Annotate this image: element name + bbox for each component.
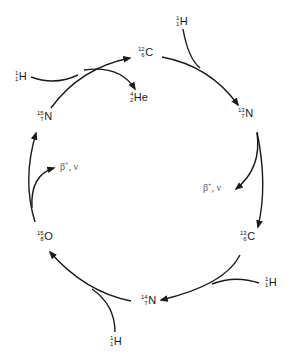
- arrow-n15-to-c12: [51, 58, 130, 108]
- nuclide-carbon-13: 136 C: [240, 230, 255, 242]
- cno-cycle-diagram: 126 C 137 N 136 C 147 N 158 O 157 N 42 H…: [0, 0, 290, 361]
- emission-beta-plus-neutrino-right: β+, ν: [203, 182, 221, 193]
- nuclide-oxygen-15: 158 O: [37, 230, 53, 242]
- atomic-number: 1: [265, 282, 268, 288]
- emission-beta-plus-neutrino-left: β+, ν: [60, 161, 78, 172]
- element-symbol: O: [44, 231, 53, 242]
- atomic-number: 8: [40, 236, 43, 242]
- element-symbol: H: [114, 336, 122, 347]
- nuclide-hydrogen-1-left: 11 H: [15, 70, 27, 82]
- arrow-c12-to-n13: [162, 57, 238, 105]
- atomic-number: 7: [241, 113, 244, 119]
- element-symbol: N: [44, 111, 52, 122]
- proton-input-top: [183, 29, 200, 68]
- atomic-number: 7: [144, 300, 147, 306]
- element-symbol: N: [148, 295, 156, 306]
- atomic-number: 6: [141, 52, 144, 58]
- element-symbol: H: [180, 16, 188, 27]
- element-symbol: H: [19, 71, 27, 82]
- arrow-n13-beta-decay: [236, 133, 258, 189]
- proton-input-left: [31, 75, 78, 81]
- nuclide-carbon-12: 126 C: [138, 46, 153, 58]
- element-symbol: H: [269, 277, 277, 288]
- atomic-number: 6: [243, 236, 246, 242]
- nuclide-hydrogen-1-bottom: 11 H: [110, 335, 122, 347]
- nuclide-hydrogen-1-right: 11 H: [265, 276, 277, 288]
- element-symbol: C: [247, 231, 255, 242]
- nuclide-nitrogen-13: 137 N: [238, 107, 253, 119]
- arrow-n14-to-o15: [50, 252, 131, 301]
- element-symbol: C: [145, 47, 153, 58]
- neutrino-symbol: , ν: [211, 182, 221, 193]
- nuclide-helium-4: 42 He: [130, 91, 148, 103]
- atomic-number: 2: [130, 97, 133, 103]
- arrow-o15-to-n15: [29, 133, 36, 222]
- nuclide-nitrogen-15: 157 N: [37, 110, 52, 122]
- arrow-o15-beta-decay: [32, 168, 54, 208]
- nuclide-hydrogen-1-top: 11 H: [176, 15, 188, 27]
- atomic-number: 1: [110, 341, 113, 347]
- element-symbol: He: [134, 92, 148, 103]
- atomic-number: 7: [40, 116, 43, 122]
- element-symbol: N: [245, 108, 253, 119]
- proton-input-right: [212, 279, 259, 284]
- nuclide-nitrogen-14: 147 N: [141, 294, 156, 306]
- atomic-number: 1: [176, 21, 179, 27]
- atomic-number: 1: [15, 76, 18, 82]
- arrow-c13-to-n14: [161, 255, 240, 300]
- neutrino-symbol: , ν: [68, 161, 78, 172]
